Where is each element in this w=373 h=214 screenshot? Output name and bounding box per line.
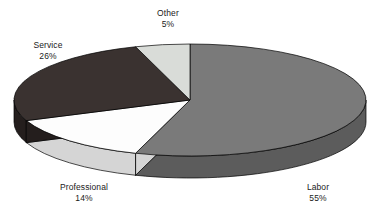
caption-strip (0, 205, 373, 214)
slice-label-professional: Professional 14% (14, 182, 154, 203)
slice-label-labor: Labor 55% (268, 182, 368, 203)
slice-label-other-name: Other (118, 8, 218, 19)
slice-label-labor-value: 55% (268, 193, 368, 204)
slice-label-other: Other 5% (118, 8, 218, 29)
slice-label-other-value: 5% (118, 19, 218, 30)
slice-label-service: Service 26% (0, 40, 96, 61)
slice-label-service-name: Service (0, 40, 96, 51)
pie-chart: Other 5% Service 26% Professional 14% La… (0, 0, 373, 214)
slice-label-professional-name: Professional (14, 182, 154, 193)
slice-label-service-value: 26% (0, 51, 96, 62)
slice-label-professional-value: 14% (14, 193, 154, 204)
slice-label-labor-name: Labor (268, 182, 368, 193)
